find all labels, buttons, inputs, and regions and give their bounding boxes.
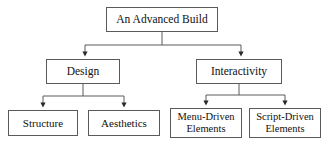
edge-interactivity-to-children [206,84,285,103]
node-interactivity-label: Interactivity [208,65,270,78]
node-structure[interactable]: Structure [8,110,78,136]
node-menu-driven-elements[interactable]: Menu-Driven Elements [170,108,242,138]
diagram-canvas: An Advanced Build Design Interactivity S… [0,0,323,148]
node-structure-label: Structure [20,117,66,129]
node-design[interactable]: Design [46,59,120,84]
edge-design-to-children [43,84,124,105]
node-design-label: Design [64,65,103,78]
node-interactivity[interactable]: Interactivity [196,59,282,84]
node-root[interactable]: An Advanced Build [106,7,218,32]
node-aesthetics[interactable]: Aesthetics [88,110,160,136]
node-root-label: An Advanced Build [113,13,210,26]
node-aesthetics-label: Aesthetics [98,117,150,129]
node-menu-driven-elements-label: Menu-Driven Elements [174,111,237,135]
node-script-driven-elements[interactable]: Script-Driven Elements [249,108,321,138]
node-script-driven-elements-label: Script-Driven Elements [253,111,317,135]
edge-root-to-level2 [85,32,241,54]
